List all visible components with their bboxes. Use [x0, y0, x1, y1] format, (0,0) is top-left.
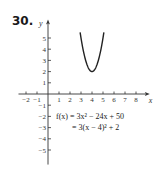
x-tick-label: 3 [79, 96, 83, 104]
equation-line-1: f(x) = 3x² − 24x + 50 [56, 112, 124, 121]
y-tick-label: −2 [39, 113, 47, 121]
y-tick-label: −5 [39, 147, 47, 155]
equation-line-2: = 3(x − 4)² + 2 [72, 123, 119, 132]
y-tick-label: −3 [39, 124, 47, 132]
y-tick-label: −4 [39, 135, 47, 143]
x-tick-label: 4 [90, 96, 94, 104]
y-tick-label: 1 [43, 79, 47, 87]
y-tick-label: 5 [43, 35, 47, 43]
x-tick-label: 8 [134, 96, 138, 104]
x-tick-label: 6 [112, 96, 116, 104]
y-axis-label: y [38, 19, 43, 28]
tick-labels: xy−2−11234567854321−1−2−3−4−5 [22, 19, 153, 155]
x-tick-label: 7 [123, 96, 127, 104]
x-tick-label: 5 [101, 96, 105, 104]
y-tick-label: 3 [43, 57, 47, 65]
x-tick-label: −2 [22, 96, 30, 104]
y-tick-label: −1 [39, 102, 47, 110]
y-tick-label: 4 [43, 46, 47, 54]
parabola-curve [80, 32, 104, 71]
x-tick-label: 1 [57, 96, 61, 104]
x-tick-label: 2 [68, 96, 72, 104]
parabola-chart: xy−2−11234567854321−1−2−3−4−5 [0, 0, 157, 173]
curves [80, 32, 104, 71]
y-tick-label: 2 [43, 68, 47, 76]
x-axis-label: x [148, 96, 153, 105]
